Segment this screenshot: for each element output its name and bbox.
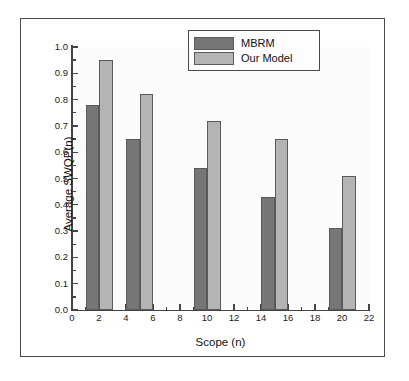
x-tick [71,304,72,310]
x-tick-label: 4 [114,313,138,323]
y-tick [72,257,78,258]
x-tick-label: 6 [141,313,165,323]
legend-label: Our Model [241,52,292,64]
x-tick-label: 18 [303,313,327,323]
legend-label: MBRM [241,37,275,49]
bar [342,176,356,310]
y-tick-minor [72,86,76,87]
x-tick-label: 10 [195,313,219,323]
x-tick-label: 12 [222,313,246,323]
legend-item-our-model: Our Model [194,51,314,65]
bar [261,197,275,310]
bar [329,228,343,310]
x-tick [233,304,234,310]
y-tick [72,73,78,74]
y-axis-title-container: Average SWQP(n) [22,50,46,310]
bar [140,94,154,310]
y-tick [72,309,78,310]
x-tick-minor [247,307,248,311]
x-tick-label: 22 [357,313,381,323]
x-tick [368,304,369,310]
bar [86,105,100,310]
y-tick [72,46,78,47]
bar [275,139,289,310]
y-tick [72,125,78,126]
x-tick [314,304,315,310]
bar [207,121,221,310]
bar [194,168,208,310]
legend-swatch-icon [194,52,234,65]
x-tick-label: 16 [276,313,300,323]
y-tick-minor [72,270,76,271]
x-tick-minor [166,307,167,311]
x-axis-title: Scope (n) [72,336,369,348]
x-tick-label: 14 [249,313,273,323]
x-tick-label: 8 [168,313,192,323]
y-tick-minor [72,59,76,60]
legend-item-mbrm: MBRM [194,36,314,50]
chart-figure: 0.00.10.20.30.40.50.60.70.80.91.0 024681… [0,0,409,381]
x-tick-label: 0 [60,313,84,323]
y-tick-minor [72,112,76,113]
y-tick-minor [72,296,76,297]
legend-swatch-icon [194,37,234,50]
x-tick [179,304,180,310]
bar [126,139,140,310]
y-tick [72,99,78,100]
chart-legend: MBRM Our Model [188,30,320,71]
x-tick-label: 2 [87,313,111,323]
x-tick-minor [301,307,302,311]
plot-area [72,47,369,310]
x-tick-label: 20 [330,313,354,323]
y-tick-minor [72,244,76,245]
y-tick [72,283,78,284]
bar [99,60,113,310]
y-axis-title: Average SWQP(n) [62,136,74,231]
